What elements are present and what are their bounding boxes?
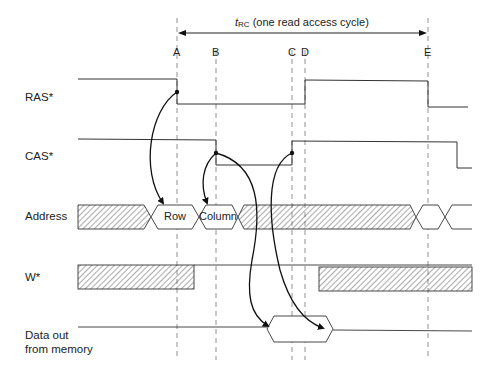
trc-title: tRC (one read access cycle) (235, 16, 369, 29)
signal-label-ras: RAS* (25, 91, 53, 104)
marker-label-d: D (301, 46, 309, 58)
arrow-ras-to-row (150, 92, 177, 203)
trc-description: (one read access cycle) (250, 16, 369, 28)
data-out-waveform (78, 316, 472, 342)
marker-label-a: A (173, 46, 180, 58)
signal-label-data-out: Data out (25, 329, 68, 342)
signal-label-address: Address (25, 210, 67, 223)
address-bus (78, 205, 472, 229)
marker-label-c: C (288, 46, 296, 58)
timing-diagram-svg (0, 0, 491, 379)
timing-diagram: tRC (one read access cycle) A B C D E RA… (0, 0, 491, 379)
w-waveform (78, 265, 472, 291)
ras-waveform (78, 79, 468, 107)
signal-label-data-out-line2: from memory (25, 343, 93, 356)
signal-label-w: W* (25, 271, 40, 284)
marker-label-b: B (212, 46, 219, 58)
trc-subscript: RC (238, 20, 250, 29)
address-column-label: Column (196, 210, 240, 222)
arrow-cas-to-column (203, 153, 216, 203)
address-row-label: Row (158, 210, 192, 222)
trc-span-arrow (178, 30, 427, 36)
time-marker-lines (177, 18, 428, 360)
marker-label-e: E (424, 46, 431, 58)
cas-waveform (78, 139, 472, 168)
arrow-cas-rise-to-data-end (271, 153, 323, 328)
arrow-cas-to-data-start (216, 153, 268, 326)
signal-label-cas: CAS* (25, 150, 53, 163)
